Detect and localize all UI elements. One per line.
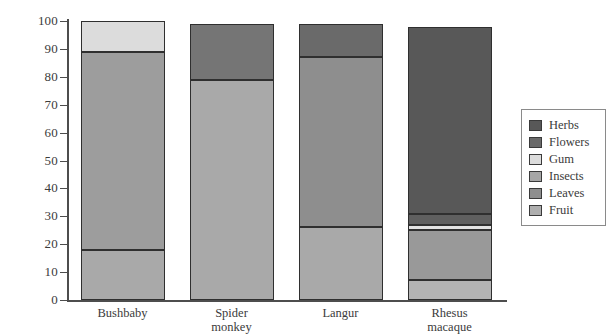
legend-swatch-icon: [529, 137, 542, 148]
stacked-bar[interactable]: [190, 21, 274, 300]
bar-segment-gum[interactable]: [408, 225, 492, 231]
y-axis-tick-label: 100: [24, 14, 58, 27]
legend-item-label: Insects: [549, 170, 584, 183]
y-axis-tick-label: 0: [24, 293, 58, 306]
x-axis-category-label-line: macaque: [395, 320, 504, 334]
legend-swatch-icon: [529, 154, 542, 165]
bar-segment-fruit[interactable]: [299, 227, 383, 300]
x-axis-category-label-line: monkey: [177, 320, 286, 334]
x-axis-category-label: Bushbaby: [68, 306, 177, 320]
bar-segment-herbs[interactable]: [408, 27, 492, 214]
bar-segment-leaves[interactable]: [408, 230, 492, 280]
x-axis-category-label: Langur: [286, 306, 395, 320]
x-axis-category-label: Spidermonkey: [177, 306, 286, 334]
bar-segment-leaves[interactable]: [299, 57, 383, 227]
legend-item[interactable]: Gum: [529, 151, 599, 167]
stacked-bar[interactable]: [408, 21, 492, 300]
bar-segment-leaves[interactable]: [190, 24, 274, 80]
legend-item[interactable]: Fruit: [529, 202, 599, 218]
legend-item[interactable]: Insects: [529, 168, 599, 184]
legend-swatch-icon: [529, 205, 542, 216]
legend-swatch-icon: [529, 171, 542, 182]
bar-group: [81, 21, 165, 300]
legend-swatch-icon: [529, 188, 542, 199]
legend-item[interactable]: Leaves: [529, 185, 599, 201]
x-axis-category-label-line: Rhesus: [395, 306, 504, 320]
legend-item-label: Fruit: [549, 204, 573, 217]
y-axis-tick-label: 30: [24, 209, 58, 222]
x-axis-category-label-line: Spider: [177, 306, 286, 320]
legend-item[interactable]: Flowers: [529, 134, 599, 150]
plot-area: [68, 21, 504, 300]
bar-segment-fruit[interactable]: [408, 280, 492, 300]
x-axis-line: [67, 300, 507, 302]
legend-item-label: Flowers: [549, 136, 589, 149]
x-axis-category-label-line: Langur: [286, 306, 395, 320]
bar-segment-flowers[interactable]: [299, 24, 383, 57]
y-axis-tick-label: 10: [24, 265, 58, 278]
x-axis-category-label: Rhesusmacaque: [395, 306, 504, 334]
bar-group: [190, 21, 274, 300]
legend-item-label: Leaves: [549, 187, 584, 200]
stacked-bar[interactable]: [81, 21, 165, 300]
bar-segment-gum[interactable]: [81, 21, 165, 52]
legend-item-label: Gum: [549, 153, 574, 166]
bar-segment-insects[interactable]: [81, 52, 165, 250]
y-axis-tick-label: 70: [24, 98, 58, 111]
bar-segment-fruit[interactable]: [81, 250, 165, 300]
stacked-bar[interactable]: [299, 21, 383, 300]
y-axis-tick-label: 50: [24, 154, 58, 167]
y-axis-tick-label: 80: [24, 70, 58, 83]
y-axis-tick-label: 60: [24, 126, 58, 139]
legend-item-label: Herbs: [549, 119, 579, 132]
x-axis-category-label-line: Bushbaby: [68, 306, 177, 320]
y-axis-tick-label: 90: [24, 42, 58, 55]
bar-segment-fruit[interactable]: [190, 80, 274, 300]
bar-segment-flowers[interactable]: [408, 214, 492, 225]
legend-swatch-icon: [529, 120, 542, 131]
legend: HerbsFlowersGumInsectsLeavesFruit: [521, 109, 606, 226]
y-axis-tick-label: 40: [24, 181, 58, 194]
bar-group: [299, 21, 383, 300]
bar-group: [408, 21, 492, 300]
y-axis-tick-label: 20: [24, 237, 58, 250]
legend-item[interactable]: Herbs: [529, 117, 599, 133]
